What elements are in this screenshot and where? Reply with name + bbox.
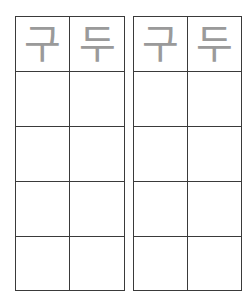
practice-cell <box>16 237 70 291</box>
trace-character: 구 <box>142 24 179 64</box>
practice-cell <box>188 127 242 182</box>
practice-cell <box>188 182 242 237</box>
practice-cell <box>134 182 188 237</box>
practice-cell <box>134 72 188 127</box>
practice-cell <box>134 127 188 182</box>
trace-character: 구 <box>24 24 61 64</box>
trace-character: 두 <box>196 24 233 64</box>
writing-grid-left: 구 두 <box>15 16 125 291</box>
practice-cell <box>16 182 70 237</box>
trace-character: 두 <box>79 24 116 64</box>
practice-cell <box>188 237 242 291</box>
practice-cell <box>16 127 70 182</box>
writing-grid-right: 구 두 <box>133 16 242 291</box>
trace-cell: 두 <box>188 17 242 72</box>
practice-cell <box>70 72 124 127</box>
practice-cell <box>16 72 70 127</box>
trace-cell: 구 <box>16 17 70 72</box>
practice-cell <box>70 237 124 291</box>
trace-cell: 구 <box>134 17 188 72</box>
practice-cell <box>70 182 124 237</box>
practice-cell <box>70 127 124 182</box>
practice-cell <box>134 237 188 291</box>
trace-cell: 두 <box>70 17 124 72</box>
practice-cell <box>188 72 242 127</box>
